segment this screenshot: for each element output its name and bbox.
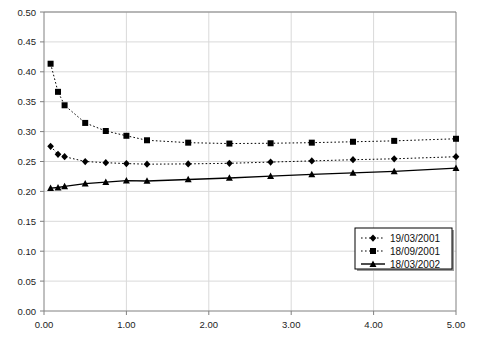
data-point-marker [123,133,129,139]
y-axis-labels: 0.000.050.100.150.200.250.300.350.400.45… [18,7,37,317]
x-axis-labels: 0.001.002.003.004.005.00 [35,319,466,330]
data-point-marker [103,128,109,134]
y-axis-tick-label: 0.40 [18,66,37,77]
data-point-marker [185,140,191,146]
y-axis-tick-label: 0.45 [18,36,37,47]
x-axis-tick-label: 1.00 [117,319,136,330]
y-axis-tick-label: 0.10 [18,246,37,257]
y-axis-tick-label: 0.20 [18,186,37,197]
data-point-marker [268,140,274,146]
data-point-marker [144,137,150,143]
y-axis-tick-label: 0.15 [18,216,37,227]
data-point-marker [391,138,397,144]
y-axis-tick-label: 0.25 [18,156,37,167]
legend-label: 19/03/2001 [390,233,440,244]
y-axis-tick-label: 0.50 [18,7,37,18]
data-point-marker [309,140,315,146]
y-axis-tick-label: 0.30 [18,126,37,137]
line-chart: 0.000.050.100.150.200.250.300.350.400.45… [0,0,477,343]
data-point-marker [48,61,54,67]
data-point-marker [226,141,232,147]
data-point-marker [55,89,61,95]
chart-container: 0.000.050.100.150.200.250.300.350.400.45… [0,0,477,343]
x-axis-tick-label: 3.00 [282,319,301,330]
data-point-marker [82,120,88,126]
y-axis-tick-label: 0.05 [18,276,37,287]
y-axis-tick-label: 0.35 [18,96,37,107]
x-axis-tick-label: 2.00 [200,319,219,330]
data-point-marker [453,136,459,142]
x-axis-tick-label: 4.00 [364,319,383,330]
legend-label: 18/09/2001 [390,246,440,257]
legend-marker-sample [370,248,376,254]
x-axis-tick-label: 0.00 [35,319,54,330]
x-axis-tick-label: 5.00 [447,319,466,330]
chart-legend: 19/03/200118/09/200118/03/2002 [355,228,454,271]
data-point-marker [350,139,356,145]
y-axis-tick-label: 0.00 [18,306,37,317]
data-point-marker [62,102,68,108]
legend-label: 18/03/2002 [390,259,440,270]
